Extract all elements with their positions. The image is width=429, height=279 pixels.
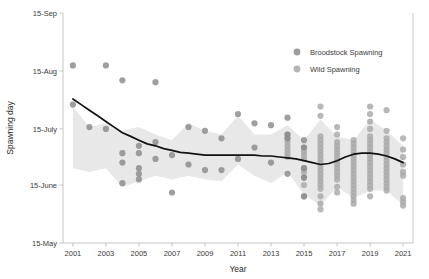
data-point xyxy=(334,189,340,195)
data-point xyxy=(317,201,323,207)
y-axis-title: Spawning day xyxy=(5,101,15,155)
chart-canvas: 2001200320052007200920112013201520172019… xyxy=(0,0,429,279)
data-point xyxy=(103,62,109,68)
y-tick-label: 15-Sep xyxy=(33,9,57,18)
data-point xyxy=(400,135,406,141)
y-tick-label: 15-May xyxy=(32,239,57,248)
data-point xyxy=(136,165,142,171)
data-point xyxy=(268,160,274,166)
data-point xyxy=(317,193,323,199)
data-point xyxy=(235,111,241,117)
data-point xyxy=(169,189,175,195)
x-tick-label: 2001 xyxy=(65,249,82,258)
data-point xyxy=(400,154,406,160)
data-point xyxy=(152,156,158,162)
data-point xyxy=(251,120,257,126)
data-point xyxy=(235,156,241,162)
data-point xyxy=(70,62,76,68)
data-point xyxy=(218,135,224,141)
data-point xyxy=(334,184,340,190)
x-tick-label: 2017 xyxy=(329,249,346,258)
data-point xyxy=(384,107,390,113)
data-point xyxy=(367,193,373,199)
data-point xyxy=(400,173,406,179)
data-point xyxy=(317,103,323,109)
x-tick-label: 2019 xyxy=(362,249,379,258)
data-point xyxy=(268,122,274,128)
data-point xyxy=(334,124,340,130)
data-point xyxy=(251,145,257,151)
data-point xyxy=(301,145,307,151)
data-point xyxy=(301,137,307,143)
data-point xyxy=(284,135,290,141)
data-point xyxy=(367,111,373,117)
y-tick-label: 15-June xyxy=(30,181,57,190)
legend-swatch-broodstock xyxy=(294,49,301,56)
data-point xyxy=(136,176,142,182)
legend-swatch-wild xyxy=(294,66,301,73)
data-point xyxy=(136,143,142,149)
data-point xyxy=(119,180,125,186)
data-point xyxy=(334,176,340,182)
data-point xyxy=(119,150,125,156)
data-point xyxy=(185,124,191,130)
data-point xyxy=(284,171,290,177)
data-point xyxy=(86,124,92,130)
data-point xyxy=(136,171,142,177)
data-point xyxy=(284,115,290,121)
data-point xyxy=(317,113,323,119)
data-point xyxy=(152,139,158,145)
data-point xyxy=(367,186,373,192)
data-point xyxy=(136,150,142,156)
data-point xyxy=(400,203,406,209)
data-point xyxy=(301,175,307,181)
data-point xyxy=(301,165,307,171)
data-point xyxy=(152,79,158,85)
data-point xyxy=(169,152,175,158)
x-tick-label: 2005 xyxy=(131,249,148,258)
y-tick-label: 15-Aug xyxy=(33,67,57,76)
legend-label-wild: Wild Spawning xyxy=(310,65,360,74)
data-point xyxy=(119,77,125,83)
data-point xyxy=(317,186,323,192)
data-point xyxy=(400,146,406,152)
data-point xyxy=(351,201,357,207)
data-point xyxy=(384,128,390,134)
y-tick-label: 15-July xyxy=(33,125,57,134)
data-point xyxy=(334,131,340,137)
x-tick-label: 2015 xyxy=(296,249,313,258)
x-tick-label: 2021 xyxy=(395,249,412,258)
data-point xyxy=(367,126,373,132)
x-tick-label: 2013 xyxy=(263,249,280,258)
data-point xyxy=(202,128,208,134)
legend-label-broodstock: Broodstock Spawning xyxy=(310,48,383,57)
x-tick-label: 2009 xyxy=(197,249,214,258)
data-point xyxy=(317,206,323,212)
x-axis-title: Year xyxy=(229,264,246,274)
x-tick-label: 2003 xyxy=(98,249,115,258)
data-point xyxy=(185,161,191,167)
x-tick-label: 2011 xyxy=(230,249,246,258)
data-point xyxy=(103,126,109,132)
spawning-day-scatter-chart: 2001200320052007200920112013201520172019… xyxy=(0,0,429,279)
data-point xyxy=(301,182,307,188)
data-point xyxy=(301,193,307,199)
data-point xyxy=(367,118,373,124)
data-point xyxy=(70,102,76,108)
x-tick-label: 2007 xyxy=(164,249,181,258)
data-point xyxy=(367,103,373,109)
data-point xyxy=(384,188,390,194)
data-point xyxy=(218,167,224,173)
data-point xyxy=(202,167,208,173)
data-point xyxy=(119,160,125,166)
